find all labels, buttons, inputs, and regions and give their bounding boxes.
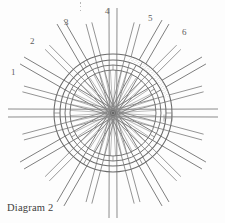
- figure-caption: Diagram 2: [7, 202, 53, 213]
- callout-label-3: 3: [64, 18, 69, 27]
- diagram-figure: [0, 0, 225, 223]
- callout-label-5: 5: [148, 14, 153, 23]
- callout-label-4: 4: [105, 7, 110, 16]
- callout-label-2: 2: [30, 37, 35, 46]
- callout-label-6: 6: [182, 28, 187, 37]
- callout-label-1: 1: [11, 68, 16, 77]
- diagram-page: 1 2 3 4 5 6 Diagram 2: [0, 0, 225, 223]
- ellipsis-mark: [79, 2, 82, 11]
